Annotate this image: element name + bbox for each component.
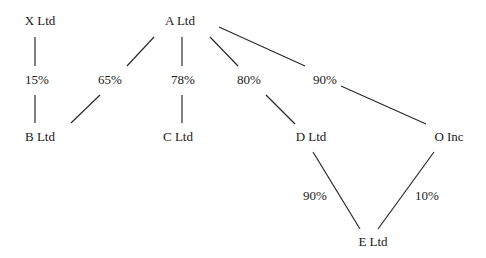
node-c-ltd: C Ltd <box>163 129 193 144</box>
stake-label-a-c: 78% <box>171 72 195 87</box>
edge-a-b-upper <box>127 37 154 66</box>
ownership-diagram: X Ltd A Ltd B Ltd C Ltd D Ltd O Inc E Lt… <box>0 0 486 258</box>
edge-a-d-lower <box>266 95 295 124</box>
stake-label-a-b: 65% <box>98 72 122 87</box>
node-b-ltd: B Ltd <box>25 129 55 144</box>
node-a-ltd: A Ltd <box>165 13 195 28</box>
edge-a-b-lower <box>71 95 100 123</box>
stake-label-x-b: 15% <box>25 72 49 87</box>
stake-label-a-d: 80% <box>237 72 261 87</box>
edge-a-d-upper <box>210 37 238 66</box>
stake-label-a-o: 90% <box>313 72 337 87</box>
edge-a-o-lower <box>341 86 426 124</box>
stake-label-o-e: 10% <box>415 188 439 203</box>
node-e-ltd: E Ltd <box>358 234 388 249</box>
node-x-ltd: X Ltd <box>25 13 56 28</box>
node-d-ltd: D Ltd <box>296 129 327 144</box>
node-o-inc: O Inc <box>434 129 463 144</box>
stake-label-d-e: 90% <box>303 188 327 203</box>
